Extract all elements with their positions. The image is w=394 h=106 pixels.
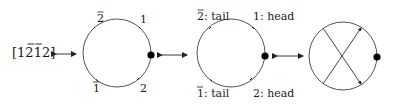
basepoint-dot — [261, 52, 268, 59]
circle-panel-labels: 2 1 1 2 — [83, 12, 155, 95]
gauss-diagram-figure: [1212] 2 1 1 2 2: tail 1: head 1: — [0, 0, 394, 106]
label-1: 1 — [140, 13, 147, 26]
circle — [309, 22, 377, 90]
chord-diagram-panel — [309, 22, 381, 90]
label-2: 2 — [140, 82, 147, 95]
label-1bar: 1 — [93, 82, 100, 95]
label-2-head: 2: head — [253, 87, 294, 100]
circle — [197, 19, 265, 87]
label-2bar: 2 — [97, 12, 104, 25]
basepoint-dot — [373, 53, 380, 60]
label-2bar-tail: 2: tail — [197, 10, 230, 23]
label-1bar-tail: 1: tail — [197, 87, 230, 100]
basepoint-dot — [147, 51, 154, 58]
circle-panel-head-tail: 2: tail 1: head 1: tail 2: head — [197, 10, 294, 100]
gauss-word: [1212] — [12, 45, 55, 60]
label-1-head: 1: head — [253, 10, 294, 23]
